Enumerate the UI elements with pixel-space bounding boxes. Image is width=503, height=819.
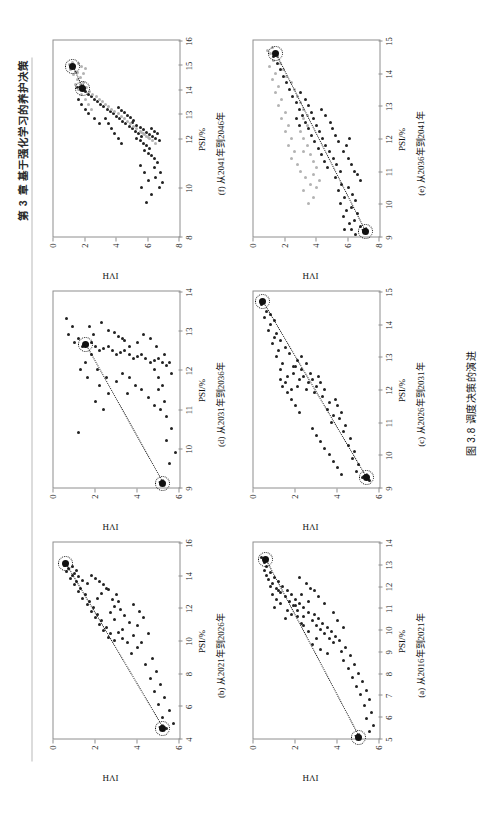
y-tick: [294, 739, 295, 743]
data-point: [159, 407, 162, 410]
scatter-panel-a: 5678910111213140246PSI/%IVH(a) 从2016年到20…: [248, 537, 434, 773]
x-tick: [178, 369, 182, 370]
data-point: [117, 630, 120, 633]
data-point: [330, 127, 333, 130]
y-tick-label: 0: [247, 243, 257, 247]
data-point: [283, 381, 286, 384]
data-point: [83, 107, 86, 110]
data-point: [154, 176, 157, 179]
data-point: [274, 71, 277, 74]
data-point: [338, 639, 341, 642]
y-tick-label: 6: [373, 745, 383, 749]
data-point: [129, 652, 132, 655]
data-point: [66, 333, 69, 336]
data-point: [273, 335, 276, 338]
y-tick: [378, 488, 379, 492]
data-point: [311, 117, 314, 120]
data-point: [329, 630, 332, 633]
data-point: [91, 92, 94, 95]
y-tick-label: 2: [89, 745, 99, 749]
x-axis-label-e: PSI/%: [396, 41, 406, 237]
data-point: [298, 601, 301, 604]
data-point: [152, 403, 155, 406]
data-point: [280, 97, 283, 100]
data-point: [298, 410, 301, 413]
x-tick-label: 9: [383, 650, 393, 654]
data-point: [287, 352, 290, 355]
x-axis-label-b: PSI/%: [196, 543, 206, 739]
x-tick: [178, 291, 182, 292]
data-point: [115, 593, 118, 596]
x-tick-label: 14: [383, 320, 393, 329]
data-point: [167, 462, 170, 465]
x-tick: [178, 89, 182, 90]
x-tick-label: 15: [383, 288, 393, 297]
data-point: [331, 641, 334, 644]
x-tick: [378, 564, 382, 565]
data-point: [294, 117, 297, 120]
data-point: [359, 179, 362, 182]
data-point: [89, 107, 92, 110]
data-point: [302, 374, 305, 377]
data-point: [292, 150, 295, 153]
data-point: [106, 344, 109, 347]
data-point: [367, 697, 370, 700]
data-point: [310, 619, 313, 622]
data-point: [157, 376, 160, 379]
data-point: [343, 228, 346, 231]
data-point: [323, 632, 326, 635]
x-tick-label: 8: [183, 672, 193, 676]
data-point: [299, 130, 302, 133]
data-point: [268, 322, 271, 325]
data-point: [148, 360, 151, 363]
data-point: [337, 140, 340, 143]
data-point: [160, 181, 163, 184]
data-point: [317, 595, 320, 598]
data-point: [131, 603, 134, 606]
data-point: [325, 652, 328, 655]
data-point: [165, 364, 168, 367]
x-tick: [378, 607, 382, 608]
data-point: [75, 568, 78, 571]
figure-caption: 图 3.8 调度决策的演进: [462, 33, 477, 773]
data-point: [306, 630, 309, 633]
data-point: [285, 588, 288, 591]
data-point: [279, 368, 282, 371]
data-point: [163, 696, 166, 699]
y-tick: [336, 739, 337, 743]
y-tick: [336, 488, 337, 492]
data-point: [83, 97, 86, 100]
header-rule: [31, 57, 32, 761]
data-point: [300, 593, 303, 596]
data-point: [285, 608, 288, 611]
x-tick-label: 13: [383, 102, 393, 111]
data-point: [302, 606, 305, 609]
data-point: [140, 352, 143, 355]
y-axis-e: 02468: [252, 237, 378, 249]
data-point: [336, 466, 339, 469]
data-point: [333, 133, 336, 136]
data-point: [317, 617, 320, 620]
data-point: [262, 316, 265, 319]
data-point: [103, 102, 106, 105]
data-point: [157, 186, 160, 189]
x-tick-label: 14: [383, 69, 393, 78]
data-point: [307, 104, 310, 107]
x-tick-label: 9: [183, 486, 193, 490]
data-point: [278, 68, 281, 71]
data-point: [279, 601, 282, 604]
data-point: [341, 215, 344, 218]
data-point: [85, 376, 88, 379]
data-point: [319, 153, 322, 156]
x-tick: [378, 651, 382, 652]
data-point: [161, 384, 164, 387]
data-point: [270, 593, 273, 596]
x-tick: [378, 73, 382, 74]
data-point: [151, 134, 154, 137]
data-point: [146, 632, 149, 635]
highlight-ring-source: [255, 293, 270, 308]
y-tick: [52, 237, 53, 241]
data-point: [167, 709, 170, 712]
sub-caption-e: (e) 从2036年到2041年: [413, 35, 426, 271]
y-axis-a: 0246: [252, 739, 378, 751]
